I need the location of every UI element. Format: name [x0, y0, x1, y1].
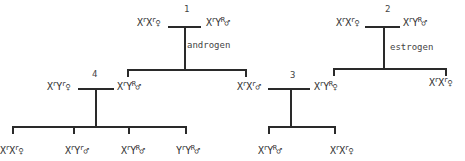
cross-1-descent-line [184, 27, 186, 61]
cross-4-offspring-4: YrYR♂ [176, 145, 199, 157]
cross-2-treatment: estrogen [390, 42, 433, 52]
cross-4-female-genotype: XrYr♀ [47, 81, 70, 93]
cross-2-descent-line [383, 27, 385, 69]
cross-1-join [184, 60, 186, 70]
cross-3-offspring-1: XrYR♂ [258, 145, 281, 157]
cross-4-offspring-2: XrYr♂ [65, 145, 88, 157]
cross-3-right-parent-genotype: XrYR♀ [314, 81, 337, 93]
cross-4-drop-4 [185, 126, 187, 134]
cross-4-sibship-line [12, 126, 187, 128]
cross-4-offspring-3: XrYR♂ [121, 145, 144, 157]
cross-1-number: 1 [184, 4, 189, 14]
cross-3-number: 3 [290, 70, 295, 80]
cross-3-offspring-2: XrXr♀ [330, 145, 353, 157]
cross-4-drop-3 [128, 126, 130, 134]
cross-3-mating-line [268, 88, 310, 90]
cross-1-male-genotype: XrYR♂ [206, 17, 229, 29]
cross-2-male-genotype: XrYR♂ [403, 17, 426, 29]
cross-1-sibship-line [127, 69, 247, 71]
cross-2-number: 2 [385, 4, 390, 14]
cross-1-drop-left [127, 69, 129, 77]
cross-3-left-parent-genotype: XrXr♂ [237, 81, 260, 93]
cross-3-drop-right [334, 126, 336, 134]
cross-2-offspring-female: XrXr♀ [429, 77, 452, 89]
cross-4-drop-1 [12, 126, 14, 134]
cross-3-sibship-line [268, 126, 336, 128]
cross-4-number: 4 [92, 69, 97, 79]
cross-2-drop-left [333, 68, 335, 76]
cross-2-sibship-line [333, 68, 447, 70]
cross-4-offspring-1: XrXr♀ [0, 145, 23, 157]
cross-3-drop-left [268, 126, 270, 134]
cross-1-treatment: androgen [187, 40, 230, 50]
cross-4-descent-line [95, 89, 97, 127]
cross-3-descent-line [290, 89, 292, 127]
cross-2-drop-right [445, 68, 447, 76]
cross-1-female-genotype: XrXr♀ [137, 17, 160, 29]
cross-1-drop-right [245, 69, 247, 77]
cross-4-male-genotype: XrYR♂ [117, 81, 140, 93]
cross-2-female-genotype: XrXr♀ [336, 17, 359, 29]
cross-4-drop-2 [73, 126, 75, 134]
